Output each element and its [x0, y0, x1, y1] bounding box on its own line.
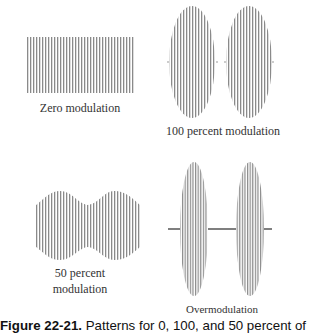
hundred-percent-modulation-pattern — [167, 6, 274, 118]
zero-modulation-label: Zero modulation — [18, 101, 142, 115]
overmodulation-label: Overmodulation — [172, 302, 272, 316]
figure-number: Figure 22-21. — [0, 318, 82, 333]
fifty-percent-label-line2: modulation — [28, 282, 132, 296]
hundred-percent-modulation-label: 100 percent modulation — [156, 124, 290, 138]
figure-caption: Figure 22-21. Patterns for 0, 100, and 5… — [0, 318, 310, 334]
fifty-percent-label-line1: 50 percent — [28, 266, 132, 280]
caption-text: Patterns for 0, 100, and 50 percent of — [82, 318, 306, 333]
fifty-percent-modulation-pattern — [35, 191, 141, 260]
zero-modulation-pattern — [26, 37, 134, 93]
overmodulation-pattern — [168, 162, 272, 296]
